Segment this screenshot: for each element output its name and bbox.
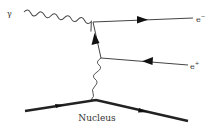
feynman-diagram: γ e− e+ Nucleus [0, 0, 220, 132]
electron-arrow-icon [137, 16, 148, 24]
photon-label: γ [7, 9, 12, 18]
nucleus-label: Nucleus [78, 113, 116, 123]
virtual-photon-line [91, 58, 101, 100]
incoming-photon-line [23, 10, 93, 32]
positron-arrow-icon [142, 57, 153, 65]
positron-label: e+ [190, 60, 200, 71]
electron-label: e− [196, 13, 206, 24]
